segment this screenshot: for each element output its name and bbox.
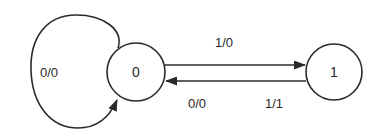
label-1-to-0-right: 1/1 [265,96,283,111]
state-1: 1 [306,44,362,100]
transition-1-to-0: 0/0 1/1 [166,81,306,111]
transition-self-loop-0: 0/0 [31,15,119,128]
transition-0-to-1: 1/0 [165,35,305,65]
label-1-to-0-left: 0/0 [188,96,206,111]
state-0-label: 0 [132,64,140,80]
label-0-to-1: 1/0 [215,35,233,50]
self-loop-label: 0/0 [40,65,58,80]
state-0: 0 [107,43,165,101]
state-diagram-canvas: 0/0 1/0 0/0 1/1 0 1 [0,0,381,139]
state-1-label: 1 [330,64,338,80]
state-diagram: 0/0 1/0 0/0 1/1 0 1 [0,0,381,139]
